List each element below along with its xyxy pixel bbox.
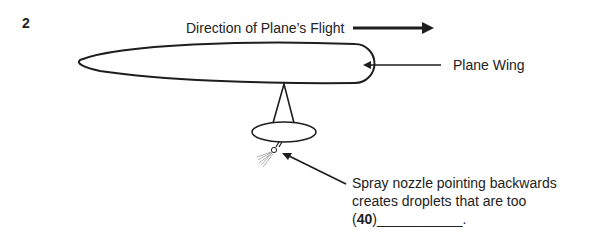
flight-direction-arrow — [353, 22, 434, 34]
answer-blank[interactable]: ___________ — [377, 211, 463, 227]
wing-label: Plane Wing — [453, 56, 525, 74]
flight-direction-label: Direction of Plane’s Flight — [186, 19, 344, 37]
answer-blank-line: (40)___________. — [352, 210, 466, 228]
strut-triangle — [273, 84, 294, 123]
nozzle-label-line-1: Spray nozzle pointing backwards — [352, 174, 557, 192]
question-number: 2 — [22, 15, 30, 31]
plane-wing-shape — [79, 43, 375, 84]
spray-boom-ellipse — [252, 122, 316, 142]
nozzle-label-line-2: creates droplets that are too — [352, 192, 526, 210]
spray-nozzle-icon — [257, 142, 282, 167]
blank-number: 40 — [357, 211, 373, 227]
nozzle-pointer-arrow — [282, 153, 346, 184]
blank-end-period: . — [463, 211, 467, 227]
